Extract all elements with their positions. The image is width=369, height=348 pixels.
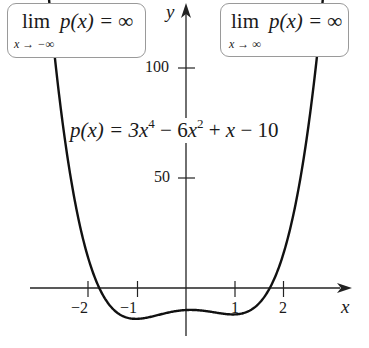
left-limit-lim: lim	[22, 9, 50, 34]
y-tick-label-50: 50	[154, 168, 170, 186]
right-limit-expression: p(x) = ∞	[269, 9, 342, 34]
right-limit-subscript: x → ∞	[229, 37, 261, 52]
x-axis-label: x	[341, 296, 349, 318]
left-limit-expression: p(x) = ∞	[60, 9, 133, 34]
left-limit-box: lim p(x) = ∞ x → −∞	[7, 3, 146, 58]
x-tick-label-1: 1	[231, 299, 239, 317]
right-limit-box: lim p(x) = ∞ x → ∞	[220, 3, 349, 57]
x-tick-label-neg2: −2	[71, 299, 88, 317]
x-tick-label-neg1: −1	[120, 299, 137, 317]
right-limit-lim: lim	[231, 9, 259, 34]
function-equation: p(x) = 3x4 − 6x2 + x − 10	[68, 118, 281, 143]
x-tick-label-2: 2	[279, 299, 287, 317]
y-axis-label: y	[166, 1, 174, 23]
left-limit-subscript: x → −∞	[14, 37, 54, 52]
y-tick-label-100: 100	[145, 58, 169, 76]
